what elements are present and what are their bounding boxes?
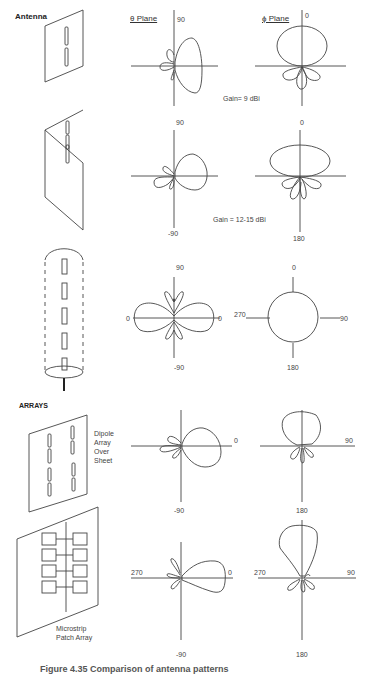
row4-theta-pattern [131,410,232,502]
row3-theta-pattern [133,277,220,358]
row3-theta-left-label: 0 [126,315,130,322]
row5-phi-bottom-label: 180 [296,651,308,658]
row5-phi-pattern [258,520,356,640]
row2-theta-bottom-label: -90 [168,230,178,237]
row5-theta-pattern [131,542,233,640]
row1-theta-top-label: 90 [177,16,185,23]
row5-description-line: Microstrip [56,624,92,633]
row4-description-line: Dipole [94,429,114,438]
row1-phi-top-label: 0 [305,12,309,19]
row5-theta-right-label: 0 [228,569,232,576]
row5-phi-right-label: 90 [347,569,355,576]
antenna-microstrip-patch-array [17,507,98,637]
row5-description-line: Patch Array [56,633,92,642]
antenna-dipole-array-sheet [29,415,87,512]
row3-theta-top-label: 90 [176,264,184,271]
row2-phi-pattern [255,130,346,232]
antenna-corner-reflector [45,110,83,230]
row1-gain-label: Gain= 9 dBi [223,95,260,102]
phi-plane-header: ϕ Plane [262,14,289,23]
row5-theta-left-label: 270 [131,569,143,576]
row4-theta-right-label: 0 [234,437,238,444]
row2-theta-pattern [131,130,218,228]
row2-phi-bottom-label: 180 [293,235,305,242]
row5-description: Microstrip Patch Array [56,624,92,642]
row3-phi-top-label: 0 [292,264,296,271]
row2-phi-top-label: 0 [300,119,304,126]
row1-theta-pattern [131,10,218,106]
row2-theta-top-label: 90 [176,119,184,126]
antenna-collinear-radome [45,249,83,391]
section-label-antenna: Antenna [15,12,47,21]
figure-caption: Figure 4.35 Comparison of antenna patter… [40,664,229,674]
row4-description-line: Array [94,438,114,447]
row3-theta-right-label: 0 [218,315,222,322]
row4-description-line: Over [94,447,114,456]
row4-phi-pattern [260,410,355,502]
row3-phi-bottom-label: 180 [287,364,299,371]
row4-phi-bottom-label: 180 [296,507,308,514]
row4-description: Dipole Array Over Sheet [94,429,114,465]
row3-phi-right-label: 90 [340,315,348,322]
row3-phi-pattern [246,277,340,358]
row4-phi-right-label: 90 [345,437,353,444]
antenna-sheet-dipole-pair [45,10,83,82]
row4-description-line: Sheet [94,456,114,465]
row5-phi-left-label: 270 [254,569,266,576]
theta-plane-header: θ Plane [130,14,157,23]
row3-phi-left-label: 270 [234,311,246,318]
section-label-arrays: ARRAYS [19,402,48,409]
row4-theta-bottom-label: -90 [174,507,184,514]
row1-phi-pattern [255,10,346,106]
row5-theta-bottom-label: -90 [176,651,186,658]
row2-gain-label: Gain = 12-15 dBi [213,216,266,223]
row3-theta-bottom-label: -90 [174,364,184,371]
